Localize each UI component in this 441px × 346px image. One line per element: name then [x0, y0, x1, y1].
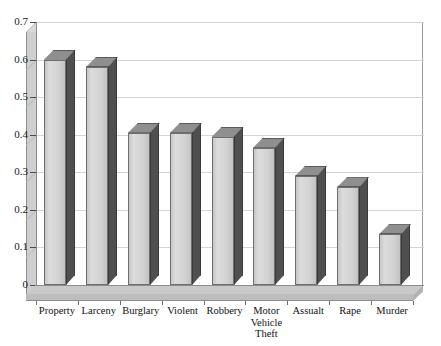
bar-side-face — [359, 177, 368, 285]
x-axis-label-line: Murder — [367, 305, 417, 317]
bar — [295, 166, 327, 285]
bar-front-face — [44, 60, 66, 285]
bar-front-face — [379, 234, 401, 285]
bar-side-face — [192, 123, 201, 285]
gridline — [36, 22, 424, 23]
bar-side-face — [401, 224, 410, 285]
y-axis-tick-label: 0.5 — [0, 91, 28, 102]
x-axis-line — [36, 285, 424, 286]
bar-front-face — [86, 67, 108, 285]
bar — [379, 224, 411, 285]
bar-chart: 0.70.60.50.40.30.20.10 PropertyLarcenyBu… — [0, 0, 441, 346]
bar-front-face — [212, 137, 234, 285]
bar-front-face — [295, 176, 317, 285]
bar — [170, 123, 202, 285]
bar-side-face — [108, 57, 117, 285]
y-axis-tick-label: 0.6 — [0, 54, 28, 65]
x-axis-label-line: Vehicle — [241, 317, 291, 329]
x-axis-label-line: Theft — [241, 328, 291, 340]
bar-side-face — [275, 138, 284, 285]
bar-front-face — [128, 133, 150, 285]
x-tick-mark — [413, 301, 414, 305]
bar-front-face — [253, 148, 275, 285]
bar-front-face — [337, 187, 359, 285]
y-axis-tick-label: 0.4 — [0, 129, 28, 140]
chart-floor-front — [26, 294, 413, 301]
bar — [253, 138, 285, 285]
bar-side-face — [66, 50, 75, 285]
bar — [44, 50, 76, 285]
y-axis-tick-label: 0.1 — [0, 241, 28, 252]
bar-side-face — [234, 127, 243, 285]
x-axis-label: Murder — [367, 305, 417, 317]
y-axis-tick-label: 0.2 — [0, 204, 28, 215]
y-axis-tick-label: 0 — [0, 279, 28, 290]
bar — [86, 57, 118, 285]
y-axis-tick-label: 0.3 — [0, 166, 28, 177]
bar — [337, 177, 369, 285]
y-axis-line — [36, 22, 37, 286]
bar-side-face — [317, 166, 326, 285]
bar-side-face — [150, 123, 159, 285]
y-axis-tick-label: 0.7 — [0, 16, 28, 27]
bar — [128, 123, 160, 285]
bar — [212, 127, 244, 285]
bar-front-face — [170, 133, 192, 285]
